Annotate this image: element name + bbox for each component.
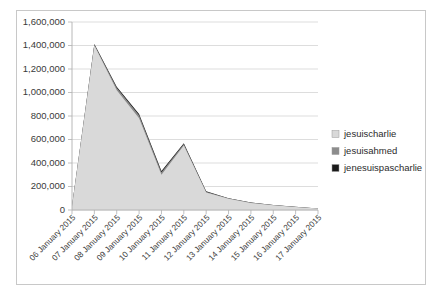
- stacked-area-chart: 0200,000400,000600,000800,0001,000,0001,…: [0, 0, 444, 299]
- y-tick-label: 0: [60, 204, 65, 215]
- area-series-jesuischarlie: [72, 46, 318, 211]
- y-tick-label: 400,000: [31, 157, 65, 168]
- legend-label-jesuisahmed: jesuisahmed: [343, 145, 397, 156]
- x-axis-tick-labels: 06 January 201507 January 201508 January…: [28, 210, 324, 263]
- legend-swatch-jesuischarlie: [332, 131, 339, 138]
- legend-label-jenesuispascharlie: jenesuispascharlie: [343, 162, 422, 173]
- y-tick-label: 800,000: [31, 110, 65, 121]
- y-tick-label: 1,000,000: [23, 86, 65, 97]
- y-tick-label: 200,000: [31, 180, 65, 191]
- y-tick-label: 1,600,000: [23, 16, 65, 27]
- y-axis-tick-labels: 0200,000400,000600,000800,0001,000,0001,…: [23, 16, 72, 215]
- y-tick-label: 1,400,000: [23, 39, 65, 50]
- legend-label-jesuischarlie: jesuischarlie: [343, 128, 396, 139]
- legend-swatch-jesuisahmed: [332, 148, 339, 155]
- chart-legend: jesuischarliejesuisahmedjenesuispascharl…: [332, 128, 422, 173]
- legend-swatch-jenesuispascharlie: [332, 165, 339, 172]
- y-tick-label: 1,200,000: [23, 63, 65, 74]
- y-tick-label: 600,000: [31, 133, 65, 144]
